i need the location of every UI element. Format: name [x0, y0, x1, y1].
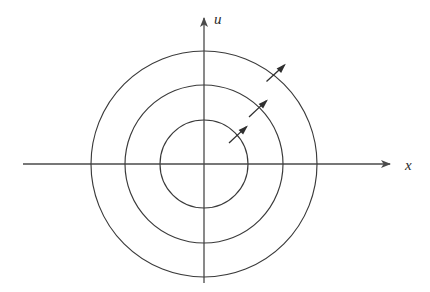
outer-orbit-direction-arrow: [267, 64, 286, 82]
phase-portrait-diagram: u x: [0, 0, 430, 292]
phase-portrait-figure: u x: [0, 0, 430, 292]
x-axis-label: x: [404, 157, 412, 173]
u-axis-label: u: [214, 11, 222, 27]
inner-orbit-direction-arrow: [229, 125, 248, 143]
